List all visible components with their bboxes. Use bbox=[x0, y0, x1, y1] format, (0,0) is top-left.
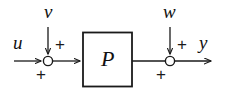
diagram-canvas bbox=[0, 0, 230, 96]
signal-label-y: y bbox=[199, 33, 207, 52]
sign-plus-plant-output: + bbox=[156, 66, 166, 83]
block-diagram-figure: u v w y P + + + + bbox=[0, 0, 230, 96]
plant-block-label: P bbox=[101, 48, 114, 70]
sign-plus-v-input: + bbox=[55, 36, 65, 53]
signal-label-u: u bbox=[13, 33, 23, 52]
summing-junction-right bbox=[165, 56, 174, 65]
sign-plus-u-input: + bbox=[36, 66, 46, 83]
signal-label-v: v bbox=[44, 2, 52, 21]
signal-label-w: w bbox=[163, 2, 176, 21]
sign-plus-w-input: + bbox=[177, 36, 187, 53]
